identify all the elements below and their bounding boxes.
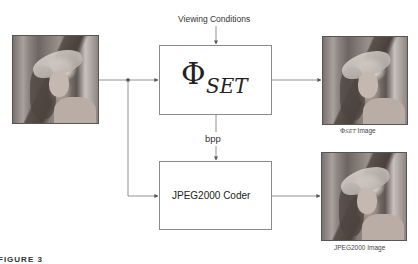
- phi-set-block: Φ SET: [159, 45, 272, 115]
- jpeg2000-output-image: [321, 152, 407, 241]
- jpeg2000-coder-label: JPEG2000 Coder: [172, 190, 250, 201]
- phi-subscript: SET: [206, 74, 248, 98]
- phi-set-output-image: [322, 36, 408, 125]
- figure-label: FIGURE 3: [0, 255, 43, 264]
- phi-set-image-caption: ΦSET Image: [340, 127, 376, 135]
- jpeg2000-coder-block: JPEG2000 Coder: [159, 161, 272, 230]
- bpp-label: bpp: [205, 133, 221, 144]
- viewing-conditions-label: Viewing Conditions: [178, 14, 250, 24]
- phi-symbol: Φ: [181, 56, 206, 91]
- jpeg2000-image-caption: JPEG2000 Image: [334, 244, 385, 251]
- input-image: [12, 35, 99, 124]
